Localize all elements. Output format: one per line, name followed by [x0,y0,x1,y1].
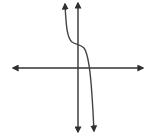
graph-canvas [0,0,152,135]
function-graph [0,0,152,135]
